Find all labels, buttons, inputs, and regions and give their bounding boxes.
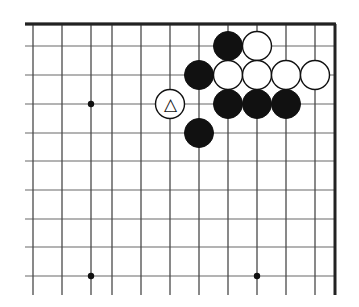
stone-black[interactable]: [243, 90, 272, 119]
triangle-mark-icon: △: [164, 95, 178, 114]
stone-white[interactable]: [214, 61, 243, 90]
white-stone-disc[interactable]: [272, 61, 301, 90]
star-point-left-lower: [88, 273, 94, 279]
black-stone-disc[interactable]: [272, 90, 301, 119]
stone-white[interactable]: [301, 61, 330, 90]
stone-black[interactable]: [185, 119, 214, 148]
black-stone-disc[interactable]: [185, 119, 214, 148]
stone-white-marked[interactable]: △: [156, 90, 185, 119]
black-stone-disc[interactable]: [214, 90, 243, 119]
stone-black[interactable]: [214, 90, 243, 119]
stone-white[interactable]: [243, 61, 272, 90]
stone-black[interactable]: [185, 61, 214, 90]
black-stone-disc[interactable]: [214, 32, 243, 61]
stone-white[interactable]: [243, 32, 272, 61]
black-stone-disc[interactable]: [185, 61, 214, 90]
white-stone-disc[interactable]: [243, 32, 272, 61]
black-stone-disc[interactable]: [243, 90, 272, 119]
go-board-diagram: △: [0, 0, 359, 307]
stone-black[interactable]: [214, 32, 243, 61]
stone-black[interactable]: [272, 90, 301, 119]
white-stone-disc[interactable]: [243, 61, 272, 90]
white-stone-disc[interactable]: [214, 61, 243, 90]
stone-white[interactable]: [272, 61, 301, 90]
star-point-center-lower: [254, 273, 260, 279]
white-stone-disc[interactable]: [301, 61, 330, 90]
star-point-left-upper: [88, 101, 94, 107]
go-board-canvas: △: [0, 0, 359, 307]
